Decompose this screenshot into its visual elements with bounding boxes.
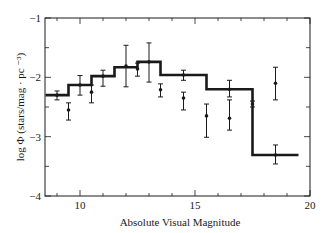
axes-box [45,18,310,196]
point-marker [274,153,278,157]
point-marker [67,108,71,112]
y-axis-title: log Φ (stars/mag · pc ⁻³) [14,52,27,161]
point-marker [228,116,232,120]
x-axis-ticks: 101520 [57,18,316,211]
point-marker [147,60,151,64]
point-marker [182,96,186,100]
step-line [46,62,299,155]
point-marker [90,90,94,94]
point-marker [205,114,209,118]
point-marker [101,74,105,78]
point-marker [159,88,163,92]
data-point [55,91,60,100]
x-tick-label: 15 [190,199,202,211]
data-point [66,103,71,120]
x-tick-label: 10 [75,199,87,211]
point-marker [251,102,255,106]
data-point [227,100,232,130]
y-tick-label: −2 [29,71,41,83]
data-point [204,104,209,137]
y-tick-label: −1 [29,12,41,24]
luminosity-function-chart: 101520 −4−3−2−1 Absolute Visual Magnitud… [0,0,326,233]
data-point [250,101,255,107]
data-point [158,84,163,97]
step-function-series [46,62,299,155]
y-tick-label: −4 [29,190,41,202]
data-point [181,70,186,80]
data-point [135,63,140,76]
x-axis-title: Absolute Visual Magnitude [120,216,241,228]
point-marker [274,81,278,85]
data-point [181,92,186,110]
data-point [273,67,278,100]
data-point [124,45,129,87]
point-marker [78,83,82,87]
plot-frame [45,18,310,196]
point-marker [55,93,59,97]
point-marker [182,73,186,77]
data-point [78,76,83,96]
data-point [101,70,106,86]
point-marker [124,64,128,68]
data-points-series [55,43,279,164]
point-marker [228,87,232,91]
y-axis-ticks: −4−3−2−1 [29,12,310,202]
point-marker [136,67,140,71]
x-tick-label: 20 [305,199,317,211]
data-point [89,85,94,103]
y-tick-label: −3 [29,131,41,143]
